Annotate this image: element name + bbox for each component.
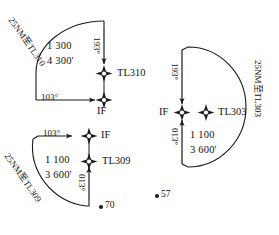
inbound-bearing-label-tl309: 103° <box>43 129 60 138</box>
speed-label-tl303: 1 100 <box>190 130 215 141</box>
if-label-tl309: IF <box>101 130 110 141</box>
spot-dot-57 <box>155 194 159 198</box>
inbound-bearing-label-tl303: 193° <box>170 63 179 80</box>
spot-label-70: 70 <box>105 201 115 211</box>
if-label-tl310: IF <box>97 106 106 117</box>
waypoint-symbol-if-tl303 <box>174 104 191 121</box>
spot-dot-70 <box>99 205 103 209</box>
waypoint-symbol-tl303 <box>198 104 215 121</box>
waypoint-symbol-tl310 <box>96 65 113 82</box>
inbound-bearing-label-tl310: 103° <box>41 93 58 102</box>
outbound-bearing-label-tl309: 013° <box>77 174 86 191</box>
arc-bottom-tick-tl309 <box>86 200 89 206</box>
altitude-label-tl303: 3 600' <box>190 145 217 156</box>
waypoint-label-tl310: TL310 <box>117 68 146 79</box>
speed-label-tl309: 1 100 <box>45 155 70 166</box>
speed-label-tl310: 1 300 <box>47 41 72 52</box>
altitude-label-tl309: 3 600' <box>45 170 72 181</box>
altitude-label-tl310: 4 300' <box>47 56 74 67</box>
outbound-bearing-label-tl303: 013° <box>170 128 179 145</box>
outbound-bearing-label-tl310: 193° <box>92 37 101 54</box>
waypoint-symbol-tl309 <box>81 153 98 170</box>
if-label-tl303: IF <box>159 107 168 118</box>
waypoint-symbol-if-tl309 <box>81 128 98 145</box>
arc-top-tick-tl309 <box>33 136 38 139</box>
spot-label-57: 57 <box>161 190 171 200</box>
diagram-canvas <box>0 0 279 235</box>
waypoint-label-tl309: TL309 <box>102 156 131 167</box>
waypoint-label-tl303: TL303 <box>218 107 247 118</box>
procedure-group-tl309 <box>33 128 98 207</box>
arc-label-tl303: 25NM至TL303 <box>253 60 262 117</box>
